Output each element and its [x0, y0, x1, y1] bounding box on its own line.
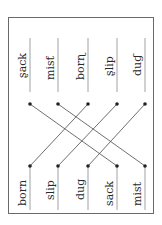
bottom-dot-4[interactable] [115, 164, 119, 168]
top-dot-3[interactable] [86, 102, 90, 106]
matching-worksheet: ʂack misƭ borɳ ʂlip duɠ born slip dug sa… [0, 0, 162, 225]
match-line-sack [30, 104, 117, 166]
bottom-dot-2[interactable] [56, 164, 60, 168]
right-word-2: slip [45, 180, 57, 200]
left-word-3: borɳ [75, 53, 87, 80]
bottom-dot-1[interactable] [28, 164, 32, 168]
bottom-dot-3[interactable] [86, 164, 90, 168]
top-dot-2[interactable] [56, 102, 60, 106]
top-dot-5[interactable] [143, 102, 147, 106]
left-word-1: ʂack [17, 53, 29, 78]
top-dot-1[interactable] [28, 102, 32, 106]
left-word-4: ʂlip [104, 56, 116, 76]
match-line-mist [58, 104, 145, 166]
match-lines [30, 104, 145, 166]
right-word-3: dug [75, 179, 87, 200]
match-line-born [30, 104, 88, 166]
bottom-dot-5[interactable] [143, 164, 147, 168]
match-line-dug [88, 104, 145, 166]
right-word-4: sack [104, 181, 116, 206]
left-word-5: duɠ [132, 54, 144, 76]
left-word-2: misƭ [45, 56, 57, 80]
top-dot-4[interactable] [115, 102, 119, 106]
right-word-5: mist [132, 182, 144, 206]
match-line-slip [58, 104, 117, 166]
right-word-1: born [17, 180, 29, 206]
